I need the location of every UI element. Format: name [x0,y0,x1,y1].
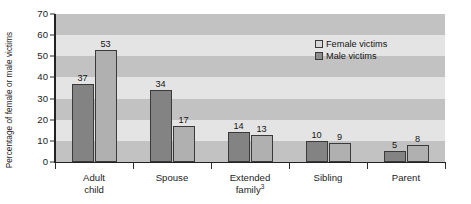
bar-male [95,50,117,162]
legend-label: Female victims [326,39,387,49]
bar-value-label: 17 [167,115,201,125]
x-axis-category-label: Extendedfamily3 [211,172,289,195]
y-axis-tick-mark [50,98,55,99]
x-axis-category-label: Sibling [289,172,367,184]
x-axis-category-label-line: Spouse [133,172,211,184]
y-axis-tick-mark [50,77,55,78]
bar-value-label: 13 [245,124,279,134]
x-axis-tick-mark [289,163,290,169]
y-axis-tick-mark [50,56,55,57]
x-axis-category-label-line: Extended [211,172,289,184]
y-axis-tick-label: 0 [24,157,48,167]
legend-item: Female victims [315,38,387,49]
x-axis-category-label: Adultchild [55,172,133,195]
x-axis-category-label: Parent [367,172,445,184]
y-axis-tick-mark [50,140,55,141]
x-axis-category-label-line: Adult [55,172,133,184]
legend-swatch-female [315,40,323,48]
x-axis-tick-mark [133,163,134,169]
x-axis-category-label-line: Sibling [289,172,367,184]
chart-legend: Female victimsMale victims [315,38,411,64]
bar-male [329,143,351,162]
y-axis-tick-label: 40 [24,72,48,82]
bar-female [306,141,328,162]
x-axis-category-label-line: family3 [211,184,289,196]
y-axis-title: Percentage of female or male victims [3,10,17,190]
x-axis-tick-mark [445,163,446,169]
x-axis-line [54,162,446,164]
background-stripe [55,14,445,35]
y-axis-tick-label: 50 [24,51,48,61]
bar-value-label: 8 [401,134,435,144]
bar-female [384,151,406,162]
legend-item: Male victims [315,50,377,61]
category-footnote-marker: 3 [261,182,265,189]
legend-swatch-male [315,52,323,60]
bar-male [251,135,273,162]
y-axis-tick-label: 30 [24,94,48,104]
bar-female [72,84,94,162]
legend-label: Male victims [326,51,377,61]
y-axis-tick-label: 70 [24,9,48,19]
y-axis-tick-label: 20 [24,115,48,125]
bar-male [173,126,195,162]
y-axis-tick-label: 10 [24,136,48,146]
x-axis-category-label-line: Parent [367,172,445,184]
x-axis-tick-mark [367,163,368,169]
bar-chart-figure: Percentage of female or male victims 010… [0,0,471,204]
bar-value-label: 37 [66,73,100,83]
bar-value-label: 53 [89,39,123,49]
bar-female [228,132,250,162]
y-axis-tick-labels: 010203040506070 [24,14,48,162]
y-axis-tick-mark [50,119,55,120]
x-axis-category-label: Spouse [133,172,211,184]
y-axis-tick-label: 60 [24,30,48,40]
x-axis-tick-mark [55,163,56,169]
bar-female [150,90,172,162]
x-axis-tick-mark [211,163,212,169]
y-axis-tick-mark [50,35,55,36]
x-axis-category-label-line: child [55,184,133,196]
bar-value-label: 9 [323,132,357,142]
y-axis-tick-mark [50,14,55,15]
bar-value-label: 34 [144,79,178,89]
